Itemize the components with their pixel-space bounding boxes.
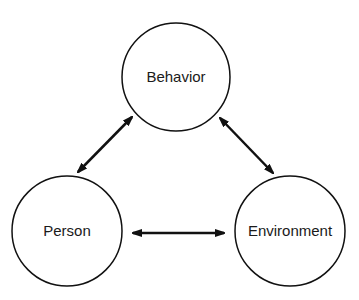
triadic-diagram: Behavior Person Environment — [0, 0, 359, 300]
arrow-person-behavior — [78, 117, 132, 172]
arrow-behavior-environment — [220, 118, 273, 173]
environment-label: Environment — [248, 222, 333, 239]
behavior-label: Behavior — [146, 68, 205, 85]
node-environment: Environment — [235, 176, 345, 286]
node-person: Person — [12, 176, 122, 286]
person-label: Person — [43, 222, 91, 239]
node-behavior: Behavior — [122, 23, 230, 131]
